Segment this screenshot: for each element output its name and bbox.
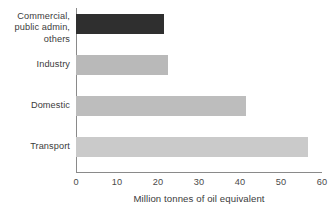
category-label-industry: Industry: [37, 59, 70, 70]
bar-chart: Commercial, public admin, others Industr…: [0, 0, 334, 216]
category-label-transport: Transport: [30, 141, 70, 152]
bar-transport: [76, 137, 308, 157]
bar-commercial: [76, 14, 164, 34]
x-axis-title: Million tonnes of oil equivalent: [76, 193, 322, 204]
plot-area: [76, 8, 322, 172]
x-axis-line: [76, 172, 322, 173]
x-tick-0: 0: [63, 176, 89, 188]
x-tick-50: 50: [268, 176, 294, 188]
x-tick-40: 40: [227, 176, 253, 188]
x-tick-60: 60: [309, 176, 334, 188]
category-label-commercial: Commercial, public admin, others: [15, 11, 70, 45]
bar-industry: [76, 55, 168, 75]
category-label-domestic: Domestic: [31, 100, 70, 111]
bar-domestic: [76, 96, 246, 116]
x-tick-20: 20: [145, 176, 171, 188]
x-tick-10: 10: [104, 176, 130, 188]
x-tick-30: 30: [186, 176, 212, 188]
